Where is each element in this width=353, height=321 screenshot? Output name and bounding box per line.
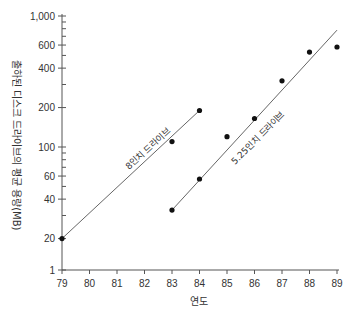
y-tick-label: 1	[49, 265, 55, 276]
chart: 1,0006004002001006040201 798081828384858…	[0, 0, 353, 321]
y-tick-label: 20	[44, 233, 56, 244]
trend-line-8inch	[62, 110, 200, 238]
x-tick-label: 81	[111, 278, 123, 289]
y-tick-label: 600	[38, 40, 55, 51]
series-label-8inch: 8인치 드라이브	[123, 125, 172, 171]
x-tick-label: 89	[331, 278, 343, 289]
y-axis: 1,0006004002001006040201	[30, 11, 66, 276]
y-tick-label: 60	[44, 171, 56, 182]
data-point	[197, 176, 202, 181]
data-point	[252, 116, 257, 121]
data-point	[169, 207, 174, 212]
x-tick-label: 87	[276, 278, 288, 289]
y-tick-label: 400	[38, 63, 55, 74]
y-tick-label: 40	[44, 194, 56, 205]
x-tick-label: 86	[249, 278, 261, 289]
x-tick-label: 79	[56, 278, 68, 289]
data-points	[59, 44, 339, 241]
x-tick-label: 80	[84, 278, 96, 289]
x-tick-label: 85	[221, 278, 233, 289]
y-tick-label: 200	[38, 102, 55, 113]
x-tick-label: 82	[139, 278, 151, 289]
data-point	[307, 50, 312, 55]
y-axis-title: 출하된 디스크 드라이브의 평균 용량(MB)	[11, 59, 23, 230]
x-tick-label: 84	[194, 278, 206, 289]
data-point	[169, 139, 174, 144]
data-point	[224, 134, 229, 139]
x-tick-label: 83	[166, 278, 178, 289]
series-labels: 8인치 드라이브5.25인치 드라이브	[123, 108, 287, 171]
trend-lines	[62, 30, 337, 238]
x-axis-title: 연도	[190, 296, 208, 307]
y-tick-label: 1,000	[30, 11, 55, 22]
data-point	[197, 108, 202, 113]
x-axis: 7980818283848586878889	[56, 270, 343, 289]
data-point	[59, 236, 64, 241]
x-tick-label: 88	[304, 278, 316, 289]
y-tick-label: 100	[38, 142, 55, 153]
data-point	[279, 78, 284, 83]
data-point	[334, 44, 339, 49]
